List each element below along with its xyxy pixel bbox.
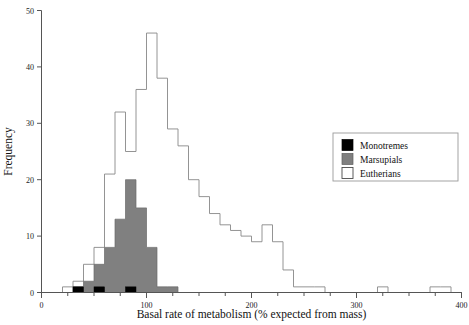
y-tick-label: 10 (26, 232, 34, 241)
monotreme-bar (73, 287, 84, 293)
series-monotremes-bars (73, 287, 136, 293)
y-tick-label: 20 (26, 176, 34, 185)
y-axis-title: Frequency (2, 127, 15, 176)
y-axis-tick-labels: 01020304050 (26, 7, 34, 298)
y-tick-label: 40 (26, 63, 34, 72)
legend-swatch-monotremes (342, 140, 353, 151)
legend-label-eutherians: Eutherians (360, 169, 401, 179)
legend-swatch-eutherians (342, 168, 353, 179)
y-tick-label: 30 (26, 119, 34, 128)
legend-label-marsupials: Marsupials (360, 155, 403, 165)
monotreme-bar (126, 287, 137, 293)
y-axis-ticks (37, 11, 42, 293)
chart-canvas: 01020304050 0100200300400 Frequency Basa… (0, 0, 469, 325)
monotreme-bar (94, 287, 105, 293)
x-axis-ticks (42, 293, 462, 299)
legend-items: MonotremesMarsupialsEutherians (342, 140, 408, 179)
legend-label-monotremes: Monotremes (360, 141, 408, 151)
x-tick-label: 0 (40, 301, 44, 310)
legend: MonotremesMarsupialsEutherians (333, 133, 458, 181)
y-tick-label: 0 (30, 289, 34, 298)
legend-swatch-marsupials (342, 154, 353, 165)
histogram-chart: 01020304050 0100200300400 Frequency Basa… (0, 0, 469, 325)
x-axis-title: Basal rate of metabolism (% expected fro… (137, 308, 367, 321)
x-tick-label: 400 (456, 301, 468, 310)
y-tick-label: 50 (26, 7, 34, 16)
